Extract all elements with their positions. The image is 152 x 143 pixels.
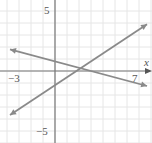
x-axis-label: x <box>143 56 149 68</box>
y-min-label: −5 <box>36 125 48 137</box>
x-max-label: 7 <box>132 72 138 84</box>
coordinate-plane: 5 −5 −3 7 x <box>0 0 152 143</box>
y-max-label: 5 <box>44 4 50 16</box>
x-min-label: −3 <box>8 72 20 84</box>
